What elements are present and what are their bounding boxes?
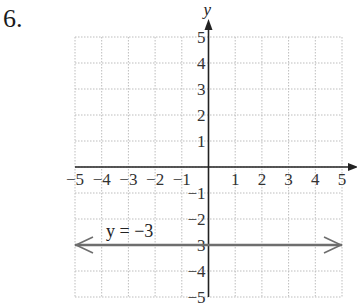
y-tick-label: 4 bbox=[197, 54, 206, 73]
y-tick-label: 5 bbox=[197, 28, 206, 47]
y-tick-label: 2 bbox=[197, 106, 206, 125]
y-tick-label: −4 bbox=[187, 262, 206, 281]
y-tick-label: −2 bbox=[187, 210, 205, 229]
y-tick-label: −1 bbox=[187, 184, 205, 203]
y-tick-label: 3 bbox=[197, 80, 206, 99]
coordinate-graph: y−5−4−3−2−11234554321−1−2−3−4−5y = −3 bbox=[0, 0, 357, 306]
x-tick-label: 5 bbox=[338, 170, 347, 189]
x-tick-label: 3 bbox=[284, 170, 293, 189]
y-tick-label: 1 bbox=[197, 132, 206, 151]
x-tick-label: 4 bbox=[311, 170, 320, 189]
y-tick-label: −5 bbox=[187, 288, 205, 306]
x-tick-label: −3 bbox=[119, 170, 137, 189]
y-axis-label: y bbox=[202, 0, 212, 19]
y-axis-arrow-icon bbox=[205, 19, 213, 30]
x-tick-label: 2 bbox=[258, 170, 267, 189]
x-tick-label: 1 bbox=[231, 170, 240, 189]
x-tick-label: −4 bbox=[93, 170, 112, 189]
x-tick-label: −2 bbox=[146, 170, 164, 189]
x-tick-label: −5 bbox=[66, 170, 84, 189]
x-axis-arrow-icon bbox=[348, 163, 357, 171]
equation-label: y = −3 bbox=[106, 221, 153, 241]
